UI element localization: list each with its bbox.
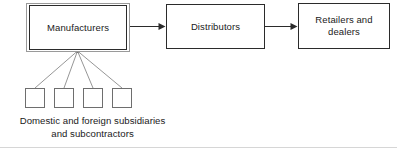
node-subsidiary-3[interactable]	[83, 88, 103, 108]
node-manufacturers-frame: Manufacturers	[29, 5, 127, 50]
node-retailers[interactable]: Retailers and dealers	[298, 3, 390, 49]
node-manufacturers-label: Manufacturers	[47, 22, 109, 34]
connector-manufacturers-to-distributors	[130, 23, 166, 30]
node-retailers-label: Retailers and dealers	[315, 14, 372, 38]
node-subsidiary-1[interactable]	[25, 88, 45, 108]
connector-distributors-to-retailers	[265, 23, 298, 30]
flow-diagram: Manufacturers Distributors Retailers and…	[0, 0, 397, 150]
node-distributors-label: Distributors	[191, 21, 240, 33]
subsidiaries-caption: Domestic and foreign subsidiaries and su…	[0, 115, 185, 140]
node-distributors[interactable]: Distributors	[166, 4, 265, 49]
connector-fan-to-subsidiaries	[35, 49, 122, 88]
node-subsidiary-2[interactable]	[54, 88, 74, 108]
node-subsidiary-4[interactable]	[112, 88, 132, 108]
node-manufacturers[interactable]: Manufacturers	[26, 3, 130, 52]
